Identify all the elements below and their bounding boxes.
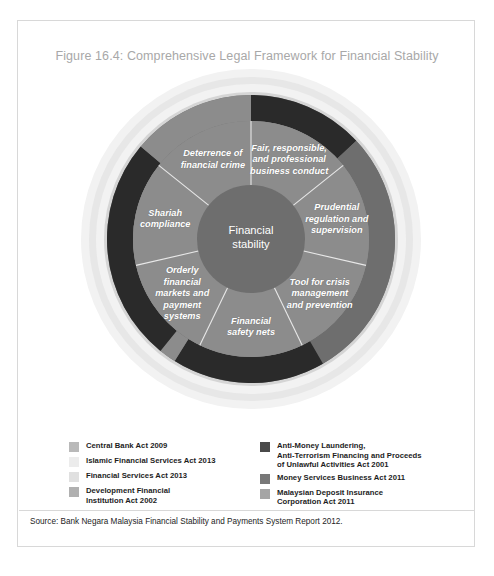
source-note: Source: Bank Negara Malaysia Financial S…: [30, 517, 343, 526]
legend-swatch-icon: [69, 457, 79, 467]
legend-label: Islamic Financial Services Act 2013: [86, 456, 259, 466]
legend-item: Malaysian Deposit Insurance Corporation …: [260, 488, 475, 507]
legend-label: Central Bank Act 2009: [86, 441, 259, 451]
legend-label: Financial Services Act 2013: [86, 471, 259, 481]
legend-item: Development Financial Institution Act 20…: [69, 486, 259, 505]
legend-label: Anti-Money Laundering, Anti-Terrorism Fi…: [277, 441, 475, 470]
figure-page: Figure 16.4: Comprehensive Legal Framewo…: [0, 0, 494, 576]
legend-label: Malaysian Deposit Insurance Corporation …: [277, 488, 475, 507]
center-label: Financial stability: [201, 224, 301, 251]
figure-frame: Figure 16.4: Comprehensive Legal Framewo…: [17, 20, 475, 547]
legend-swatch-icon: [69, 442, 79, 452]
source-divider: [19, 510, 475, 511]
legend-column-right: Anti-Money Laundering, Anti-Terrorism Fi…: [260, 441, 475, 510]
legend-item: Financial Services Act 2013: [69, 471, 259, 483]
legend-label: Money Services Business Act 2011: [277, 473, 475, 483]
legend-item: Anti-Money Laundering, Anti-Terrorism Fi…: [260, 441, 475, 470]
legend-swatch-icon: [69, 487, 79, 497]
wheel-diagram: Fair, responsible, and professional busi…: [81, 69, 421, 409]
legend-label: Development Financial Institution Act 20…: [86, 486, 259, 505]
legend-swatch-icon: [260, 442, 270, 452]
legend-column-left: Central Bank Act 2009Islamic Financial S…: [69, 441, 259, 508]
legend-item: Money Services Business Act 2011: [260, 473, 475, 485]
figure-title: Figure 16.4: Comprehensive Legal Framewo…: [18, 49, 476, 63]
legend-item: Central Bank Act 2009: [69, 441, 259, 453]
legend-swatch-icon: [69, 472, 79, 482]
legend-swatch-icon: [260, 474, 270, 484]
legend: Central Bank Act 2009Islamic Financial S…: [52, 441, 472, 521]
legend-item: Islamic Financial Services Act 2013: [69, 456, 259, 468]
legend-swatch-icon: [260, 489, 270, 499]
